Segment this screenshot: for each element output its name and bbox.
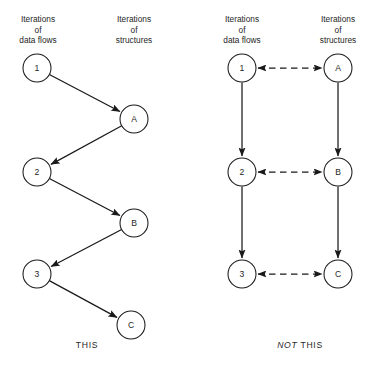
- edge-this-1-to-A: [50, 75, 120, 112]
- node-label: A: [335, 63, 341, 73]
- headers-layer: Iterationsofdata flowsIterationsofstruct…: [19, 14, 356, 45]
- column-header-structures: Iterationsofstructures: [116, 14, 152, 45]
- node-label: B: [131, 218, 137, 228]
- node-this-A[interactable]: A: [120, 105, 148, 133]
- nodes-layer: 1A2B3C1A2B3C: [23, 54, 352, 339]
- node-label: 1: [240, 63, 245, 73]
- node-this-C[interactable]: C: [117, 311, 145, 339]
- caption-emphasis: NOT: [277, 340, 300, 350]
- panel-caption-not-this: NOT THIS: [277, 340, 323, 350]
- node-label: C: [128, 320, 134, 330]
- node-not-this-A[interactable]: A: [324, 54, 352, 82]
- node-this-1[interactable]: 1: [23, 54, 51, 82]
- node-not-this-1[interactable]: 1: [228, 54, 256, 82]
- node-not-this-B[interactable]: B: [324, 158, 352, 186]
- node-label: 3: [35, 269, 40, 279]
- node-this-B[interactable]: B: [120, 209, 148, 237]
- caption-text: THIS: [76, 340, 98, 350]
- panel-caption-this: THIS: [76, 340, 98, 350]
- node-label: 2: [35, 167, 40, 177]
- figure-root: 1A2B3C1A2B3C Iterationsofdata flowsItera…: [0, 0, 373, 370]
- edge-this-3-to-C: [50, 281, 117, 317]
- node-not-this-3[interactable]: 3: [228, 260, 256, 288]
- column-header-data-flows: Iterationsofdata flows: [223, 14, 260, 45]
- edge-this-2-to-B: [50, 179, 120, 216]
- node-label: A: [131, 114, 137, 124]
- diagram-canvas: 1A2B3C1A2B3C Iterationsofdata flowsItera…: [0, 0, 373, 370]
- edge-this-A-to-2: [51, 126, 121, 164]
- edges-layer: [50, 68, 338, 317]
- node-this-2[interactable]: 2: [23, 158, 51, 186]
- captions-layer: THISNOT THIS: [76, 340, 323, 350]
- node-label: B: [335, 167, 341, 177]
- column-header-structures: Iterationsofstructures: [320, 14, 356, 45]
- node-not-this-2[interactable]: 2: [228, 158, 256, 186]
- edge-this-B-to-3: [51, 230, 121, 267]
- node-this-3[interactable]: 3: [23, 260, 51, 288]
- node-label: C: [335, 269, 341, 279]
- column-header-data-flows: Iterationsofdata flows: [19, 14, 56, 45]
- node-label: 3: [240, 269, 245, 279]
- node-label: 2: [240, 167, 245, 177]
- node-label: 1: [35, 63, 40, 73]
- caption-text: THIS: [300, 340, 322, 350]
- node-not-this-C[interactable]: C: [324, 260, 352, 288]
